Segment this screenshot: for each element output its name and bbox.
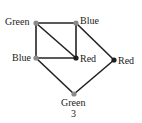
node-red-center: [73, 55, 78, 60]
node-label-red-right: Red: [118, 55, 134, 66]
node-blue-mid-left: [33, 55, 38, 60]
node-label-green-bottom: Green: [61, 97, 85, 108]
edge-green-red-diagonal: [36, 23, 76, 58]
node-label-blue-mid-left: Blue: [12, 52, 31, 63]
node-green-bottom: [71, 91, 76, 96]
node-blue-top-right: [73, 20, 78, 25]
node-green-top-left: [33, 20, 38, 25]
node-label-red-center: Red: [80, 53, 96, 64]
node-red-right: [111, 57, 116, 62]
edge-blue-green-bottom: [36, 58, 74, 94]
graph-caption: 3: [71, 108, 76, 119]
node-label-blue-top-right: Blue: [80, 15, 99, 26]
node-label-green-top-left: Green: [5, 16, 29, 27]
edge-green-red-bottom: [74, 60, 114, 94]
